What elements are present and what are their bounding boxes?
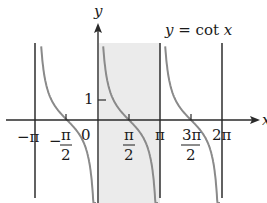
x-tick-label-neg-pi: −π	[17, 128, 40, 146]
x-tick-label-half-pi-num: π	[124, 126, 134, 144]
cot-graph: y x y = cot x 1 −π − π 2 0 π 2 π 3π 2 2π	[0, 0, 267, 203]
y-tick-label-1: 1	[84, 90, 94, 108]
shaded-period-region	[99, 43, 160, 203]
x-tick-label-3half-pi-num: 3π	[182, 126, 202, 144]
y-axis-label: y	[93, 2, 103, 20]
cot-branch-neg-pi-to-0	[41, 46, 96, 203]
x-tick-label-neg-half-pi-den: 2	[61, 146, 71, 164]
graph-title: y = cot x	[164, 21, 233, 39]
x-tick-label-neg-half-pi-num: π	[61, 126, 71, 144]
x-tick-label-2pi: 2π	[212, 126, 232, 144]
cot-branch-pi-to-2pi	[165, 46, 220, 203]
x-tick-label-neg-half-pi-sign: −	[49, 132, 62, 150]
x-tick-label-half-pi-den: 2	[124, 146, 134, 164]
x-tick-label-zero: 0	[81, 126, 91, 144]
x-tick-label-pi: π	[155, 126, 165, 144]
x-tick-label-3half-pi-den: 2	[186, 146, 196, 164]
x-axis-label: x	[262, 111, 267, 129]
